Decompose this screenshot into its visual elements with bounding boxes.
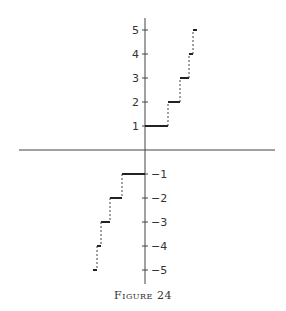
y-tick-label: −3 <box>151 216 167 229</box>
step-function-figure: 54321−1−2−3−4−5 Figure 24 <box>0 0 286 311</box>
y-tick-label: 5 <box>132 24 139 37</box>
y-tick-label: 4 <box>132 48 139 61</box>
figure-caption: Figure 24 <box>0 289 286 302</box>
y-tick-label: 2 <box>132 96 139 109</box>
y-tick-label: −2 <box>151 192 167 205</box>
y-tick-label: −1 <box>151 168 167 181</box>
y-tick-label: −5 <box>151 264 167 277</box>
axes <box>19 18 275 284</box>
chart-canvas: 54321−1−2−3−4−5 <box>0 0 286 311</box>
y-tick-label: 1 <box>132 120 139 133</box>
y-tick-label: −4 <box>151 240 167 253</box>
y-tick-label: 3 <box>132 72 139 85</box>
